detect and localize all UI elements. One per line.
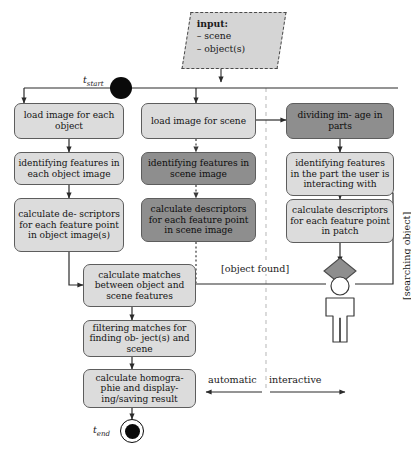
activity-identify-patch-features[interactable]: identifying features in the part the use… [286,152,394,196]
activity-descriptors-object[interactable]: calculate de- scriptors for each feature… [14,198,124,252]
decision-and-actor [310,258,372,348]
swimlane-label-automatic: automatic [208,374,257,385]
activity-load-image-scene[interactable]: load image for scene [141,103,256,139]
activity-identify-scene-features[interactable]: identifying features in scene image [141,152,256,185]
activity-load-image-object[interactable]: load image for each object [14,103,124,139]
actor-head [331,277,349,295]
guard-searching-object: [searching object] [401,212,411,300]
swimlane-label-interactive: interactive [269,374,321,385]
activity-filtering-matches[interactable]: filtering matches for finding ob- ject(s… [83,320,196,357]
end-node-label: tend [93,424,110,438]
input-note-item-0: – scene [197,30,273,42]
guard-object-found: [object found] [219,263,291,274]
input-note-title: input: [197,18,273,30]
start-node-label: tstart [83,74,104,88]
activity-identify-object-features[interactable]: identifying features in each object imag… [14,152,124,185]
activity-dividing-image[interactable]: dividing im- age in parts [286,103,394,139]
input-note-item-1: – object(s) [197,43,273,55]
activity-diagram-canvas: input: – scene – object(s) tstart load i… [0,0,411,451]
activity-calculate-matches[interactable]: calculate matches between object and sce… [83,264,196,307]
end-node-fill [125,424,140,439]
start-node [110,77,132,99]
activity-descriptors-patch[interactable]: calculate descriptors for each feature p… [286,199,394,243]
activity-calculate-homography[interactable]: calculate homogra- phie and display- ing… [83,369,196,408]
activity-descriptors-scene[interactable]: calculate descriptors for each feature p… [141,198,256,242]
input-note: input: – scene – object(s) [181,12,286,69]
